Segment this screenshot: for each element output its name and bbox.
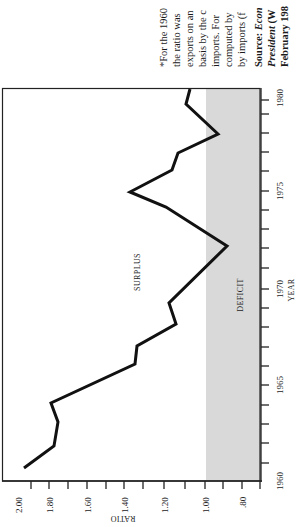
footnote: *For the 1960 the ratio was exports on a…	[158, 6, 290, 67]
ratio-tick-label: 1.20	[160, 497, 170, 513]
ratio-axis-title: RATIO	[110, 514, 135, 523]
footnote-line: by imports (f	[236, 12, 248, 67]
ratio-tick-label: 1.80	[45, 497, 55, 513]
deficit-label: DEFICIT	[236, 278, 245, 311]
source-title-cont: President	[266, 25, 277, 67]
footnote-line: imports. For	[210, 15, 221, 67]
footnote-line: exports on an	[184, 10, 195, 67]
ratio-axis	[2, 481, 262, 489]
footnote-line: computed by	[223, 12, 234, 67]
ratio-line	[24, 89, 227, 468]
year-tick-label: 1980	[275, 89, 285, 108]
year-tick-labels: 1960 1965 1970 1975 1980	[275, 89, 285, 491]
year-tick-label: 1960	[275, 472, 285, 491]
ratio-tick-labels: 2.00 1.80 1.60 1.40 1.20 1.00 .80	[14, 496, 248, 513]
source-line: Source: Econ	[253, 7, 264, 67]
surplus-label: SURPLUS	[133, 253, 142, 291]
ratio-tick-label: .80	[238, 496, 248, 508]
deficit-band	[206, 89, 260, 481]
ratio-tick-label: 1.00	[201, 497, 211, 513]
source-line: President (W	[266, 9, 278, 67]
source-title: Econ	[253, 7, 264, 31]
ratio-tick-label: 1.60	[83, 497, 93, 513]
year-tick-label: 1970	[275, 280, 285, 299]
footnote-line: *For the 1960	[158, 8, 169, 67]
year-axis-title: YEAR	[287, 278, 296, 301]
year-tick-label: 1975	[275, 182, 285, 201]
year-axis	[261, 88, 269, 482]
source-prefix: Source:	[253, 30, 264, 67]
source-date: February 198	[279, 6, 290, 67]
source-place: (W	[266, 9, 278, 26]
footnote-line: basis by the c	[197, 10, 208, 67]
chart: 2.00 1.80 1.60 1.40 1.20 1.00 .80 RATIO …	[0, 0, 299, 527]
year-tick-label: 1965	[275, 376, 285, 395]
ratio-tick-label: 1.40	[120, 497, 130, 513]
footnote-line: the ratio was	[171, 13, 182, 67]
ratio-tick-label: 2.00	[14, 497, 24, 513]
